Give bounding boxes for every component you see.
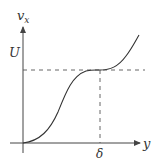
velocity-curve xyxy=(23,35,139,143)
vertical-axis-label: vx xyxy=(17,8,29,25)
profile-diagram: vx U y δ xyxy=(0,0,165,160)
delta-label: δ xyxy=(96,147,103,160)
horizontal-axis-label: y xyxy=(142,136,151,151)
level-label-U: U xyxy=(9,45,21,60)
